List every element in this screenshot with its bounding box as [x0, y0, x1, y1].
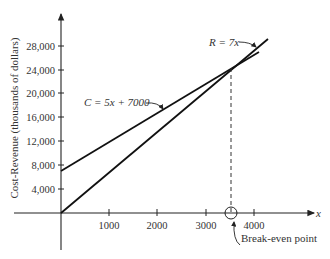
svg-text:4,000: 4,000 — [31, 184, 55, 195]
revenue-line — [61, 39, 268, 213]
svg-text:1000: 1000 — [99, 220, 120, 231]
revenue-pointer-arrow — [239, 42, 256, 47]
x-axis-label: x — [315, 207, 321, 219]
revenue-equation-label: R = 7x — [208, 36, 239, 48]
cost-equation-label: C = 5x + 7000 — [84, 96, 150, 108]
y-tick-labels: 4,000 8,000 12,000 16,000 20,000 24,000 … — [26, 41, 55, 195]
y-axis-label: Cost-Revenue (thousands of dollars) — [8, 37, 21, 198]
svg-text:28,000: 28,000 — [26, 41, 55, 52]
x-tick-labels: 1000 2000 3000 4000 — [99, 220, 265, 231]
cost-line — [61, 52, 259, 171]
svg-text:4000: 4000 — [244, 220, 265, 231]
svg-text:16,000: 16,000 — [26, 112, 55, 123]
svg-text:12,000: 12,000 — [26, 136, 55, 147]
svg-text:24,000: 24,000 — [26, 65, 55, 76]
svg-text:20,000: 20,000 — [26, 88, 55, 99]
break-even-pointer-arrow — [234, 222, 240, 245]
break-even-label: Break-even point — [241, 232, 317, 244]
svg-text:2000: 2000 — [147, 220, 168, 231]
break-even-chart: x 4,000 8,000 12,000 16,000 20,000 24,00… — [0, 0, 330, 259]
svg-text:3000: 3000 — [196, 220, 217, 231]
svg-text:8,000: 8,000 — [31, 160, 55, 171]
